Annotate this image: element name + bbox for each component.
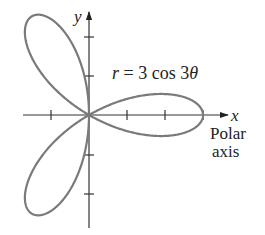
- equation-label: r = 3 cos 3θ: [112, 63, 198, 83]
- polar-axis-label-line2: axis: [212, 142, 239, 161]
- polar-axis-label-line1: Polar: [210, 124, 246, 143]
- equation-theta: θ: [189, 63, 198, 83]
- x-axis-label: x: [230, 106, 239, 125]
- equation-body: = 3 cos 3: [119, 63, 189, 83]
- polar-rose-diagram: y x Polar axis r = 3 cos 3θ: [0, 0, 265, 235]
- y-axis-label: y: [72, 7, 82, 26]
